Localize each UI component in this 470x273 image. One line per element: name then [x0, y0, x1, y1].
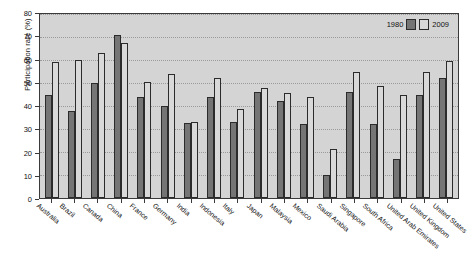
x-axis-label: India: [175, 202, 191, 217]
x-axis-label: Japan: [245, 202, 264, 220]
legend-swatch-1980: [406, 19, 416, 30]
bar-1980: [137, 97, 144, 198]
bar-2009: [214, 78, 221, 198]
bar-1980: [323, 175, 330, 198]
x-axis-label: China: [105, 202, 124, 219]
y-axis-tickmark: [35, 60, 39, 61]
y-axis-tick-label: 50: [0, 78, 32, 87]
bar-group: [161, 14, 175, 198]
bar-1980: [370, 124, 377, 198]
y-axis-tick-label: 0: [0, 195, 32, 204]
bar-2009: [330, 149, 337, 198]
y-axis-tickmark: [35, 153, 39, 154]
y-axis-tickmark: [35, 13, 39, 14]
legend-swatch-2009: [419, 19, 429, 30]
x-axis-label: Germany: [152, 202, 179, 226]
bar-1980: [45, 95, 52, 199]
x-axis-label: Canada: [82, 202, 105, 223]
bar-group: [346, 14, 360, 198]
chart-legend: 1980 2009: [384, 18, 452, 31]
bar-2009: [423, 72, 430, 199]
bar-group: [45, 14, 59, 198]
bar-1980: [393, 159, 400, 198]
y-axis-tickmark: [35, 36, 39, 37]
bar-1980: [300, 124, 307, 198]
bar-group: [114, 14, 128, 198]
y-axis-tick-label: 30: [0, 125, 32, 134]
x-axis-label: Italy: [222, 202, 236, 216]
bar-2009: [261, 88, 268, 198]
bar-2009: [237, 109, 244, 198]
bar-1980: [114, 35, 121, 198]
bar-2009: [353, 72, 360, 199]
x-axis-label: Brazil: [59, 202, 77, 219]
bar-1980: [346, 92, 353, 198]
bar-group: [207, 14, 221, 198]
y-axis-tickmark: [35, 176, 39, 177]
bar-1980: [184, 123, 191, 198]
bar-group: [416, 14, 430, 198]
x-axis-label: Mexico: [292, 202, 313, 222]
bar-1980: [207, 97, 214, 198]
bar-group: [254, 14, 268, 198]
bar-group: [184, 14, 198, 198]
bar-2009: [98, 53, 105, 198]
bar-1980: [161, 106, 168, 198]
x-axis-label: Malaysia: [269, 202, 295, 225]
bar-groups: [40, 14, 458, 198]
bar-2009: [284, 93, 291, 198]
x-axis-label: France: [129, 202, 150, 221]
y-axis-tickmark: [35, 83, 39, 84]
bar-group: [323, 14, 337, 198]
bar-2009: [52, 62, 59, 198]
bar-2009: [400, 95, 407, 199]
bar-2009: [191, 122, 198, 198]
bar-1980: [439, 78, 446, 198]
y-axis-tickmark: [35, 129, 39, 130]
bar-2009: [144, 82, 151, 198]
x-axis-labels: AustraliaBrazilCanadaChinaFranceGermanyI…: [39, 202, 459, 272]
y-axis-tick-label: 40: [0, 102, 32, 111]
legend-label-2009: 2009: [432, 20, 449, 29]
bar-2009: [168, 74, 175, 198]
y-axis-tick-label: 10: [0, 171, 32, 180]
bar-2009: [446, 61, 453, 198]
y-axis-tick-label: 70: [0, 32, 32, 41]
bar-group: [393, 14, 407, 198]
bar-2009: [75, 60, 82, 198]
bar-1980: [230, 122, 237, 198]
y-axis-tick-label: 20: [0, 148, 32, 157]
y-axis-tick-label: 60: [0, 55, 32, 64]
bar-group: [230, 14, 244, 198]
bar-group: [370, 14, 384, 198]
bar-1980: [91, 83, 98, 198]
x-axis-label: United Kingdom: [409, 202, 452, 239]
bar-group: [68, 14, 82, 198]
bar-1980: [416, 95, 423, 199]
x-axis-label: Australia: [35, 202, 60, 225]
bar-group: [300, 14, 314, 198]
bar-group: [137, 14, 151, 198]
bar-2009: [377, 86, 384, 198]
bar-2009: [307, 97, 314, 198]
bar-group: [439, 14, 453, 198]
bar-2009: [121, 43, 128, 198]
participation-rate-bar-chart: Participation rate (%) 1980 2009 0102030…: [0, 0, 470, 273]
legend-label-1980: 1980: [387, 20, 404, 29]
bar-1980: [254, 92, 261, 198]
bar-group: [277, 14, 291, 198]
bar-group: [91, 14, 105, 198]
y-axis-tick-label: 80: [0, 9, 32, 18]
bar-1980: [68, 111, 75, 198]
plot-area: 1980 2009: [39, 13, 459, 199]
y-axis-tickmark: [35, 106, 39, 107]
bar-1980: [277, 101, 284, 198]
